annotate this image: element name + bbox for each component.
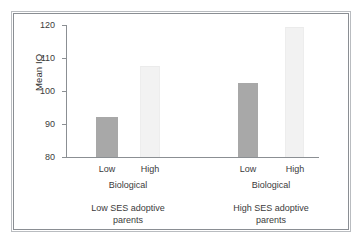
y-tick-label-100: 100 xyxy=(40,87,55,96)
group-title-g2-line2: parents xyxy=(256,215,286,225)
group-title-g1-line1: Low SES adoptive xyxy=(91,203,165,213)
y-tick-90: 90 xyxy=(62,124,66,125)
chart-figure: Mean IQ 80 90 100 110 120 Low High Biolo… xyxy=(0,0,363,242)
bar-g2-high xyxy=(285,27,304,157)
bar-g1-low xyxy=(96,117,118,157)
y-tick-120: 120 xyxy=(62,25,66,26)
group-title-g1: Low SES adoptive parents xyxy=(68,203,188,226)
group-axis-label-g2: Biological xyxy=(252,181,291,190)
y-axis-line xyxy=(66,25,67,157)
category-label-g1-high: High xyxy=(141,165,160,174)
plot-area: 80 90 100 110 120 Low High Biological Lo… xyxy=(66,25,319,157)
bar-g2-low xyxy=(238,83,258,157)
category-label-g1-low: Low xyxy=(99,165,116,174)
y-tick-100: 100 xyxy=(62,91,66,92)
group-axis-label-g1: Biological xyxy=(109,181,148,190)
group-title-g1-line2: parents xyxy=(113,215,143,225)
group-title-g2-line1: High SES adoptive xyxy=(233,203,309,213)
group-title-g2: High SES adoptive parents xyxy=(211,203,331,226)
category-label-g2-low: Low xyxy=(240,165,257,174)
y-tick-110: 110 xyxy=(62,58,66,59)
category-label-g2-high: High xyxy=(286,165,305,174)
y-tick-label-80: 80 xyxy=(45,153,55,162)
y-tick-label-120: 120 xyxy=(40,21,55,30)
y-tick-label-110: 110 xyxy=(41,54,55,63)
y-tick-label-90: 90 xyxy=(45,120,55,129)
y-tick-80: 80 xyxy=(62,157,66,158)
x-axis-line xyxy=(66,157,319,158)
bar-g1-high xyxy=(140,66,160,157)
